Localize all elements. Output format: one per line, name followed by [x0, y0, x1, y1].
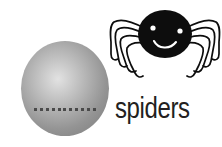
seam-dot [34, 108, 37, 111]
spider-graphic [108, 2, 222, 84]
spider-leg-right-4 [186, 43, 203, 77]
seam-dot [46, 108, 49, 111]
seam-dot [75, 108, 78, 111]
gray-ball-seam-dots [34, 107, 96, 112]
spider-eye-right [177, 28, 182, 33]
seam-dot [63, 108, 66, 111]
spider-body [138, 10, 192, 58]
seam-dot [93, 108, 96, 111]
illustration-canvas: spiders [0, 0, 222, 147]
spider-eye-left [150, 25, 155, 30]
word-label: spiders [115, 93, 190, 123]
gray-ball-body [21, 41, 109, 136]
spider-icon [108, 2, 222, 84]
gray-ball-graphic [21, 41, 109, 136]
seam-dot [69, 108, 72, 111]
spider-leg-left-4 [127, 43, 144, 77]
seam-dot [40, 108, 43, 111]
seam-dot [52, 108, 55, 111]
seam-dot [87, 108, 90, 111]
seam-dot [58, 108, 61, 111]
seam-dot [81, 108, 84, 111]
